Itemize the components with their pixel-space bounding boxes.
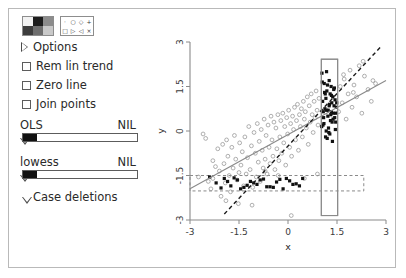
data-point[interactable] [323,107,326,110]
data-point[interactable] [363,74,367,78]
data-point[interactable] [270,138,274,142]
data-point[interactable] [323,82,326,85]
data-point[interactable] [303,110,307,114]
data-point[interactable] [334,121,337,124]
data-point[interactable] [300,135,304,139]
data-point[interactable] [219,194,223,198]
data-point[interactable] [325,129,328,132]
data-point[interactable] [306,142,310,146]
data-point[interactable] [352,83,356,87]
data-point[interactable] [342,73,346,77]
symbol-swatch-2[interactable]: ◇ [77,17,85,26]
data-point[interactable] [325,89,328,92]
data-point[interactable] [281,111,285,115]
data-point[interactable] [371,79,375,83]
data-point[interactable] [342,77,346,81]
data-point[interactable] [317,96,321,100]
data-point[interactable] [278,178,281,181]
data-point[interactable] [252,131,256,135]
data-point[interactable] [216,147,220,151]
data-point[interactable] [268,162,272,166]
slider-row[interactable] [20,170,138,179]
color-swatch-2[interactable] [43,17,53,26]
alternate-fit-line[interactable] [224,46,381,214]
data-point[interactable] [285,177,288,180]
data-point[interactable] [295,119,299,123]
data-point[interactable] [301,99,305,103]
data-point[interactable] [274,126,278,130]
data-point[interactable] [240,150,244,154]
data-point[interactable] [291,114,295,118]
data-point[interactable] [289,122,293,126]
symbol-swatch-4[interactable]: □ [61,26,69,35]
data-point[interactable] [250,144,254,148]
data-point[interactable] [338,85,342,89]
data-point[interactable] [248,168,252,172]
checkbox-zero-line[interactable]: Zero line [22,78,87,92]
data-point[interactable] [222,162,226,166]
data-point[interactable] [275,147,279,151]
checkbox-icon[interactable] [22,100,31,109]
data-point[interactable] [298,113,302,117]
data-point[interactable] [290,154,294,158]
data-point[interactable] [272,186,275,189]
data-point[interactable] [279,119,283,123]
data-point[interactable] [327,126,330,129]
data-point[interactable] [305,95,309,99]
data-point[interactable] [333,98,336,101]
data-point[interactable] [215,181,218,184]
data-point[interactable] [326,83,329,86]
data-point[interactable] [289,214,293,218]
data-point[interactable] [328,104,331,107]
data-point[interactable] [259,128,263,132]
data-point[interactable] [239,187,242,190]
data-point[interactable] [302,117,306,121]
data-point[interactable] [256,160,260,164]
slider-track[interactable] [22,133,138,142]
plot-canvas[interactable]: -3-1.501.53-3-1.501.53xy [150,14,396,262]
data-point[interactable] [369,99,373,103]
data-point[interactable] [236,178,239,181]
data-point[interactable] [334,128,337,131]
data-point[interactable] [247,125,251,129]
data-point[interactable] [271,154,275,158]
slider-lowess[interactable]: lowess NIL [20,155,138,179]
data-point[interactable] [333,116,336,119]
color-swatch-0[interactable] [23,17,33,26]
data-point[interactable] [257,139,261,143]
symbol-swatch-1[interactable]: ○ [69,17,77,26]
data-point[interactable] [329,113,332,116]
data-point[interactable] [322,116,325,119]
data-point[interactable] [223,177,226,180]
data-point[interactable] [291,183,294,186]
data-point[interactable] [297,148,301,152]
symbol-swatch-6[interactable]: ◁ [77,26,85,35]
data-point[interactable] [314,89,318,93]
data-point[interactable] [346,92,350,96]
data-point[interactable] [282,141,286,145]
case-deletions-menu[interactable]: Case deletions [22,190,117,204]
data-point[interactable] [229,190,233,194]
symbol-swatch-3[interactable]: + [85,17,93,26]
data-point[interactable] [264,134,268,138]
options-menu[interactable]: Options [22,40,77,54]
symbol-palette[interactable]: ·○◇+□▷◁× [60,16,94,36]
scatter-plot[interactable]: -3-1.501.53-3-1.501.53xy [150,14,396,262]
slider-ols[interactable]: OLS NIL [20,118,138,142]
color-swatch-5[interactable] [43,26,53,35]
data-point[interactable] [219,186,222,189]
data-point[interactable] [204,137,208,141]
data-point[interactable] [273,168,277,172]
data-point[interactable] [233,134,237,138]
data-point[interactable] [295,182,298,185]
data-point[interactable] [234,157,238,161]
data-point[interactable] [326,115,329,118]
data-point[interactable] [214,165,218,169]
data-point[interactable] [324,97,327,100]
data-point[interactable] [301,177,304,180]
data-point[interactable] [324,92,327,95]
color-swatch-3[interactable] [23,26,33,35]
data-point[interactable] [221,142,225,146]
data-point[interactable] [329,92,332,95]
data-point[interactable] [287,108,291,112]
